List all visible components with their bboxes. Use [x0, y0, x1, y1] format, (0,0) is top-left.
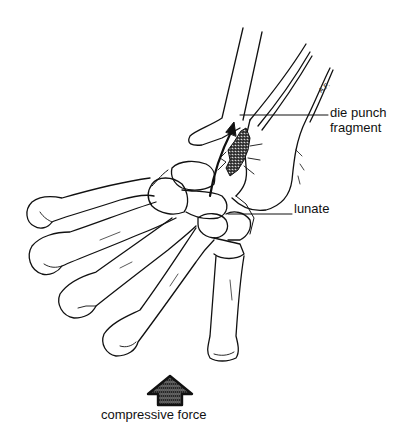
finger-1 [27, 178, 154, 228]
up-arrow-icon [148, 376, 192, 405]
lunate-label: lunate [294, 201, 329, 216]
wrist-fracture-diagram [0, 0, 409, 429]
finger-3 [59, 218, 196, 318]
finger-2 [29, 202, 176, 275]
die-punch-label-line2: fragment [330, 120, 386, 135]
radius-bone [232, 44, 333, 210]
die-punch-label-line1: die punch [330, 105, 386, 120]
die-punch-fragment-label: die punch fragment [330, 105, 386, 135]
thumb [208, 256, 244, 361]
finger-4 [103, 228, 214, 356]
carpal-bones [148, 161, 254, 258]
ulna-bone [189, 28, 262, 145]
compressive-force-label: compressive force [101, 407, 206, 422]
